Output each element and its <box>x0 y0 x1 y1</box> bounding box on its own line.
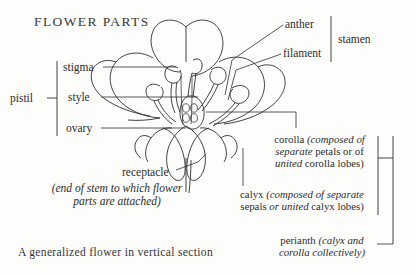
label-anther: anther <box>285 18 314 31</box>
receptacle-note-line2: parts are attached) <box>73 195 161 207</box>
label-receptacle: receptacle <box>122 166 169 179</box>
corolla-name: corolla <box>274 133 307 145</box>
label-stamen: stamen <box>338 33 371 46</box>
label-receptacle-note: (end of stem to which flower parts are a… <box>26 182 208 208</box>
corolla-note-d: united <box>275 157 302 169</box>
label-ovary: ovary <box>66 122 92 135</box>
perianth-note-b: corolla collectively) <box>279 246 365 258</box>
perianth-name: perianth <box>280 234 318 246</box>
calyx-name: calyx <box>240 188 266 200</box>
figure-caption: A generalized flower in vertical section <box>18 246 213 259</box>
calyx-note-b: sepals <box>240 200 269 212</box>
label-calyx: calyx (composed of separate sepals or un… <box>222 188 382 212</box>
corolla-note-b: separate <box>275 145 312 157</box>
label-style: style <box>68 91 90 104</box>
flower-drawing <box>91 20 285 193</box>
label-filament: filament <box>283 47 321 60</box>
flower-parts-diagram: FLOWER PARTS <box>0 0 417 275</box>
calyx-note-c: or <box>269 200 281 212</box>
calyx-note-a: (composed of separate <box>266 188 364 200</box>
label-stigma: stigma <box>63 61 94 74</box>
corolla-note-c: petals or of <box>312 145 363 157</box>
calyx-note-e: calyx lobes) <box>309 200 364 212</box>
label-corolla: corolla (composed of separate petals or … <box>262 133 377 169</box>
corolla-note-a: (composed of <box>307 133 365 145</box>
perianth-note-a: (calyx and <box>318 234 363 246</box>
calyx-note-d: united <box>282 200 309 212</box>
label-perianth: perianth (calyx and corolla collectively… <box>268 234 376 258</box>
receptacle-note-line1: (end of stem to which flower <box>52 182 183 194</box>
label-pistil: pistil <box>10 92 33 105</box>
corolla-note-e: corolla lobes) <box>302 157 364 169</box>
